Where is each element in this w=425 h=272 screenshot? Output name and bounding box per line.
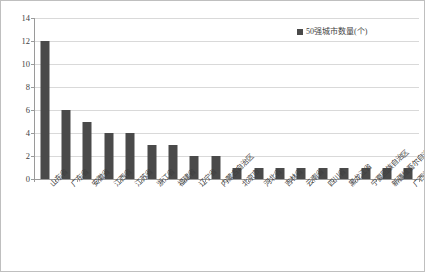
x-axis-tick-label: 辽宁省 — [198, 183, 203, 188]
x-axis-tick-label: 吉林省 — [284, 183, 289, 188]
bar-slot — [312, 18, 333, 179]
bar-slot — [162, 18, 183, 179]
bar-slot — [355, 18, 376, 179]
x-axis-tick-label: 内蒙古自治区 — [220, 183, 225, 188]
bar[interactable] — [40, 41, 49, 179]
x-axis-tick-label: 安徽省 — [91, 183, 96, 188]
bar-chart-figure: 02468101214 山东省广东省安徽省江西省江苏省浙江省福建省辽宁省内蒙古自… — [0, 0, 425, 272]
bars-group — [34, 18, 419, 179]
bar-slot — [269, 18, 290, 179]
x-axis-tick-label: 江苏省 — [134, 183, 139, 188]
x-axis-tick-label: 山东省 — [49, 183, 54, 188]
bar-slot — [376, 18, 397, 179]
plot-area: 02468101214 — [34, 18, 419, 179]
x-axis-tick-label: 广东省 — [70, 183, 75, 188]
bar-slot — [141, 18, 162, 179]
x-axis-tick-label: 云南省 — [305, 183, 310, 188]
legend-label: 50强城市数量(个) — [306, 28, 367, 36]
bar-slot — [77, 18, 98, 179]
y-axis-line — [34, 18, 35, 179]
x-axis-tick-label: 北京市 — [241, 183, 246, 188]
x-axis-tick-label: 广西壮族自治区 — [412, 183, 417, 188]
x-axis-tick-mark — [34, 179, 35, 182]
x-axis-tick-label: 黑龙江省 — [348, 183, 353, 188]
bar-slot — [291, 18, 312, 179]
bar-slot — [120, 18, 141, 179]
x-axis-tick-label: 河北省 — [263, 183, 268, 188]
x-axis-tick-label: 浙江省 — [156, 183, 161, 188]
bar-slot — [34, 18, 55, 179]
x-axis-labels: 山东省广东省安徽省江西省江苏省浙江省福建省辽宁省内蒙古自治区北京市河北省吉林省云… — [34, 183, 419, 271]
chart-legend: 50强城市数量(个) — [297, 28, 367, 36]
bar-slot — [205, 18, 226, 179]
x-axis-tick-label: 福建省 — [177, 183, 182, 188]
x-axis-tick-label: 江西省 — [113, 183, 118, 188]
x-axis-tick-label: 新疆维吾尔自治区 — [391, 183, 396, 188]
legend-swatch-icon — [297, 29, 303, 35]
bar-slot — [227, 18, 248, 179]
x-axis-tick-label: 四川省 — [327, 183, 332, 188]
bar-slot — [98, 18, 119, 179]
bar-slot — [333, 18, 354, 179]
x-axis-tick-label: 宁夏回族自治区 — [370, 183, 375, 188]
bar-slot — [55, 18, 76, 179]
bar-slot — [184, 18, 205, 179]
